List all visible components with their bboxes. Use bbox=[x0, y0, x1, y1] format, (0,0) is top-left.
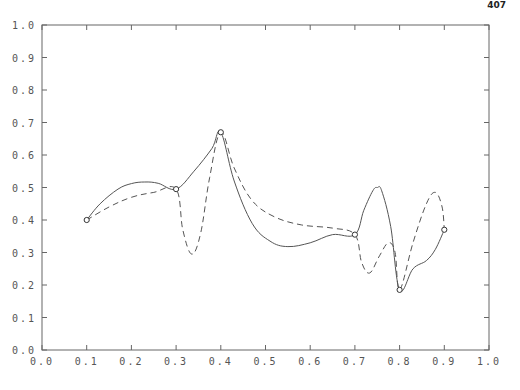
y-tick-label: 0.8 bbox=[12, 85, 36, 96]
solid-curve bbox=[87, 131, 445, 291]
data-point-marker bbox=[442, 227, 447, 232]
y-tick-label: 0.1 bbox=[12, 313, 36, 324]
series-layer bbox=[87, 131, 445, 291]
data-point-marker bbox=[352, 232, 357, 237]
data-point-marker bbox=[84, 217, 89, 222]
y-axis: 0.00.10.20.30.40.50.60.70.80.91.0 bbox=[12, 20, 489, 356]
y-tick-label: 0.4 bbox=[12, 215, 36, 226]
x-tick-label: 0.3 bbox=[164, 356, 188, 367]
x-tick-label: 1.0 bbox=[477, 356, 501, 367]
data-point-marker bbox=[218, 130, 223, 135]
data-point-marker bbox=[174, 187, 179, 192]
x-tick-label: 0.8 bbox=[388, 356, 412, 367]
y-tick-label: 0.3 bbox=[12, 248, 36, 259]
x-axis: 0.00.10.20.30.40.50.60.70.80.91.0 bbox=[30, 25, 501, 367]
x-tick-label: 0.0 bbox=[30, 356, 54, 367]
x-tick-label: 0.1 bbox=[75, 356, 99, 367]
x-tick-label: 0.7 bbox=[343, 356, 367, 367]
x-tick-label: 0.4 bbox=[209, 356, 233, 367]
y-tick-label: 0.7 bbox=[12, 118, 36, 129]
y-tick-label: 0.9 bbox=[12, 53, 36, 64]
line-chart: 0.00.10.20.30.40.50.60.70.80.91.0 0.00.1… bbox=[0, 0, 520, 390]
x-tick-label: 0.5 bbox=[253, 356, 277, 367]
dashed-curve bbox=[87, 132, 445, 290]
y-tick-label: 1.0 bbox=[12, 20, 36, 31]
x-tick-label: 0.6 bbox=[298, 356, 322, 367]
points-layer bbox=[84, 130, 447, 293]
plot-frame bbox=[42, 25, 489, 350]
y-tick-label: 0.0 bbox=[12, 345, 36, 356]
x-tick-label: 0.9 bbox=[432, 356, 456, 367]
x-tick-label: 0.2 bbox=[119, 356, 143, 367]
y-tick-label: 0.5 bbox=[12, 183, 36, 194]
data-point-marker bbox=[397, 287, 402, 292]
y-tick-label: 0.2 bbox=[12, 280, 36, 291]
y-tick-label: 0.6 bbox=[12, 150, 36, 161]
